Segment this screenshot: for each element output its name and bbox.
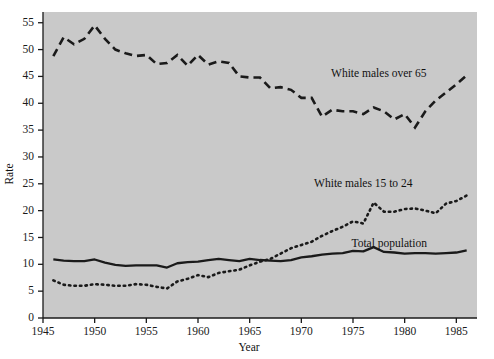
axis-lines <box>43 12 477 318</box>
x-tick-label: 1960 <box>178 326 218 338</box>
y-tick-label: 40 <box>8 97 34 109</box>
axes-canvas <box>0 0 494 359</box>
x-tick-label: 1955 <box>126 326 166 338</box>
y-tick-label: 45 <box>8 70 34 82</box>
x-tick-label: 1945 <box>23 326 63 338</box>
x-tick-label: 1965 <box>230 326 270 338</box>
y-tick-label: 5 <box>8 285 34 297</box>
y-tick-label: 50 <box>8 44 34 56</box>
x-tick-label: 1985 <box>436 326 476 338</box>
chart-figure: White males over 65 White males 15 to 24… <box>0 0 494 359</box>
y-tick-label: 35 <box>8 124 34 136</box>
x-tick-label: 1970 <box>281 326 321 338</box>
y-tick-label: 15 <box>8 232 34 244</box>
y-tick-label: 55 <box>8 17 34 29</box>
x-tick-label: 1975 <box>333 326 373 338</box>
y-axis-title: Rate <box>3 154 15 194</box>
x-tick-label: 1980 <box>385 326 425 338</box>
x-axis-title: Year <box>224 341 274 353</box>
y-tick-marks <box>38 23 43 318</box>
x-tick-label: 1950 <box>75 326 115 338</box>
x-tick-marks <box>43 318 456 323</box>
y-tick-label: 20 <box>8 205 34 217</box>
y-tick-label: 0 <box>8 312 34 324</box>
y-tick-label: 10 <box>8 258 34 270</box>
